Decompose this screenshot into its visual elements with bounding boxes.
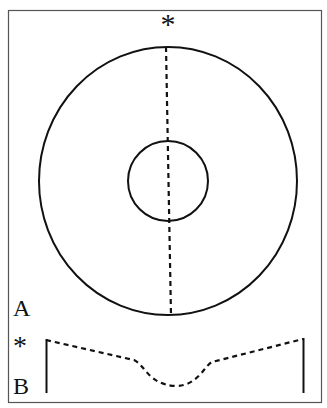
panel-b-label: B: [13, 373, 29, 399]
panel-a-label: A: [13, 295, 31, 321]
figure-border: [9, 11, 322, 403]
outer-ellipse: [39, 47, 297, 315]
dashed-meridian-line: [166, 47, 171, 315]
dashed-profile-curve: [46, 339, 303, 386]
diagram-canvas: * A * B: [0, 0, 327, 408]
panel-b-asterisk-marker: *: [13, 330, 27, 361]
top-asterisk-marker: *: [161, 7, 176, 40]
